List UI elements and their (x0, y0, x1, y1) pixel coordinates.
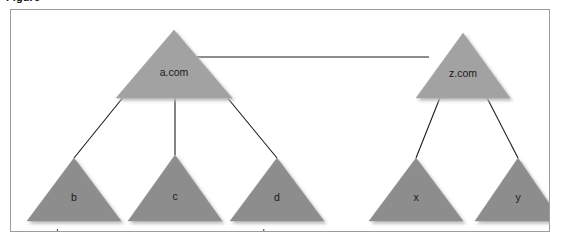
node-x[interactable]: x x.z.com (369, 158, 463, 231)
figure-frame-border: a.com z.com b b.a.com c c.a.com d d.a.co… (10, 9, 550, 232)
figure-root: Figure a.com (0, 0, 565, 240)
node-caption-d: d.a.com (259, 228, 295, 231)
triangle-y[interactable] (475, 158, 549, 221)
edge-a-to-b (74, 90, 129, 158)
node-b[interactable]: b b.a.com (27, 158, 121, 231)
node-label-d: d (274, 191, 280, 203)
triangle-x[interactable] (369, 158, 463, 221)
node-label-x: x (413, 191, 419, 203)
edge-z-to-y (483, 90, 518, 158)
node-label-y: y (515, 191, 521, 203)
node-label-z-com: z.com (449, 67, 477, 79)
figure-caption-strip: Figure (0, 0, 565, 7)
node-caption-y: y.z.com (501, 228, 535, 231)
edge-z-to-x (416, 90, 443, 158)
node-label-c: c (172, 190, 177, 202)
figure-caption-text: Figure (6, 0, 40, 3)
node-caption-c: c.a.com (157, 228, 192, 231)
triangle-a-com[interactable] (116, 30, 232, 98)
node-a-com[interactable]: a.com (116, 30, 232, 98)
zone-delegation-diagram: a.com z.com b b.a.com c c.a.com d d.a.co… (11, 10, 549, 231)
triangle-b[interactable] (27, 158, 121, 221)
triangle-d[interactable] (230, 158, 324, 221)
node-caption-x: x.z.com (399, 228, 433, 231)
node-caption-b: b.a.com (56, 228, 92, 231)
node-d[interactable]: d d.a.com (230, 158, 324, 231)
edge-a-to-d (221, 90, 277, 158)
node-y[interactable]: y y.z.com (475, 158, 549, 231)
triangle-c[interactable] (128, 155, 222, 221)
triangle-z-com[interactable] (416, 33, 510, 98)
node-label-a-com: a.com (160, 66, 189, 78)
node-label-b: b (71, 191, 77, 203)
node-z-com[interactable]: z.com (416, 33, 510, 98)
node-c[interactable]: c c.a.com (128, 155, 222, 231)
